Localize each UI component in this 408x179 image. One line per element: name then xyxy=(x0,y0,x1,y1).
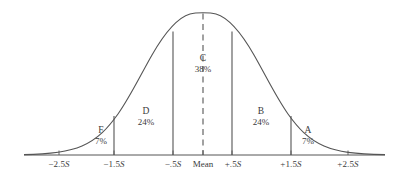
region-grade-c: C xyxy=(195,53,212,64)
axis-label-plus-0-5s: +.5S xyxy=(225,159,242,169)
region-percent-a: 7% xyxy=(302,136,314,146)
region-grade-a: A xyxy=(302,125,314,136)
region-label-b: B 24% xyxy=(253,106,270,127)
axis-label-minus-1-5s-unit: S xyxy=(120,159,125,169)
normal-distribution-figure: F 7% D 24% C 38% B 24% A 7% −2.5S −1.5S … xyxy=(0,0,408,179)
axis-label-minus-0-5s-value: −.5 xyxy=(165,159,177,169)
axis-label-minus-0-5s: −.5S xyxy=(165,159,182,169)
region-grade-f: F xyxy=(95,125,107,136)
axis-label-minus-2-5s: −2.5S xyxy=(48,159,69,169)
region-percent-c: 38% xyxy=(195,64,212,74)
region-label-f: F 7% xyxy=(95,125,107,146)
axis-label-plus-2-5s-value: +2.5 xyxy=(337,159,354,169)
axis-label-plus-0-5s-value: +.5 xyxy=(225,159,237,169)
region-grade-b: B xyxy=(253,106,270,117)
axis-label-plus-1-5s-unit: S xyxy=(297,159,302,169)
axis-label-minus-2-5s-value: −2.5 xyxy=(48,159,65,169)
axis-label-plus-1-5s: +1.5S xyxy=(280,159,301,169)
axis-label-plus-2-5s: +2.5S xyxy=(337,159,358,169)
region-percent-b: 24% xyxy=(253,117,270,127)
bell-curve-path xyxy=(24,13,385,155)
axis-label-minus-0-5s-unit: S xyxy=(177,159,182,169)
region-grade-d: D xyxy=(138,106,155,117)
region-percent-f: 7% xyxy=(95,136,107,146)
region-label-a: A 7% xyxy=(302,125,314,146)
distribution-chart-canvas xyxy=(0,0,408,179)
region-label-c: C 38% xyxy=(195,53,212,74)
axis-label-minus-2-5s-unit: S xyxy=(65,159,70,169)
axis-label-minus-1-5s-value: −1.5 xyxy=(103,159,120,169)
region-percent-d: 24% xyxy=(138,117,155,127)
axis-label-plus-0-5s-unit: S xyxy=(237,159,242,169)
region-label-d: D 24% xyxy=(138,106,155,127)
axis-label-plus-2-5s-unit: S xyxy=(354,159,359,169)
axis-label-mean: Mean xyxy=(193,159,214,169)
axis-label-minus-1-5s: −1.5S xyxy=(103,159,124,169)
axis-label-plus-1-5s-value: +1.5 xyxy=(280,159,297,169)
